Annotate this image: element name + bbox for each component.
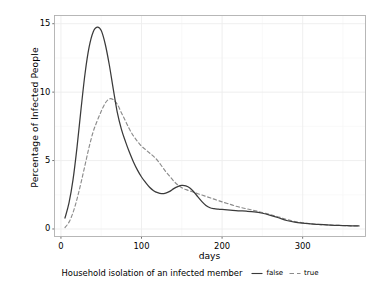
y-axis-title: Percentage of Infected People (29, 18, 40, 218)
x-tick-label: 100 (129, 241, 155, 251)
x-tick-label: 0 (48, 241, 74, 251)
y-tick-label: 0 (28, 223, 50, 233)
chart-legend: Household isolation of an infected membe… (0, 268, 380, 278)
legend-item-true[interactable]: true (289, 269, 318, 277)
legend-label-true: true (304, 269, 318, 277)
x-axis-title: days (54, 250, 365, 261)
legend-title: Household isolation of an infected membe… (62, 268, 243, 278)
legend-label-false: false (266, 269, 283, 277)
legend-key-solid-icon (251, 270, 263, 277)
x-tick-label: 300 (290, 241, 316, 251)
chart-figure: 0 5 10 15 0 100 200 300 Percentage of In… (0, 0, 380, 287)
x-tick-label: 200 (209, 241, 235, 251)
legend-key-dashed-icon (289, 270, 301, 277)
legend-item-false[interactable]: false (251, 269, 283, 277)
